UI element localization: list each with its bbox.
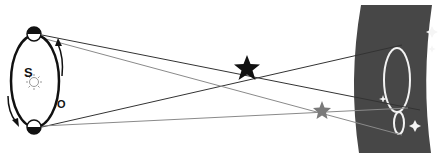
orbit-arrowhead-icon: [12, 118, 19, 127]
earth-top-icon: [27, 27, 41, 41]
sun-label: S: [24, 65, 33, 80]
parallax-diagram: S O: [0, 0, 441, 155]
orbit-label: O: [57, 98, 66, 110]
earth-bottom-icon: [27, 120, 41, 134]
background-sky-band: [354, 5, 432, 153]
sight-line-top-to-far: [42, 38, 402, 135]
near-star-icon: [234, 55, 260, 80]
sight-line-bottom-to-far: [42, 108, 408, 126]
background-star-icon: [428, 45, 436, 53]
far-star-icon: [313, 101, 331, 119]
far-star-sight-lines: [42, 38, 408, 135]
